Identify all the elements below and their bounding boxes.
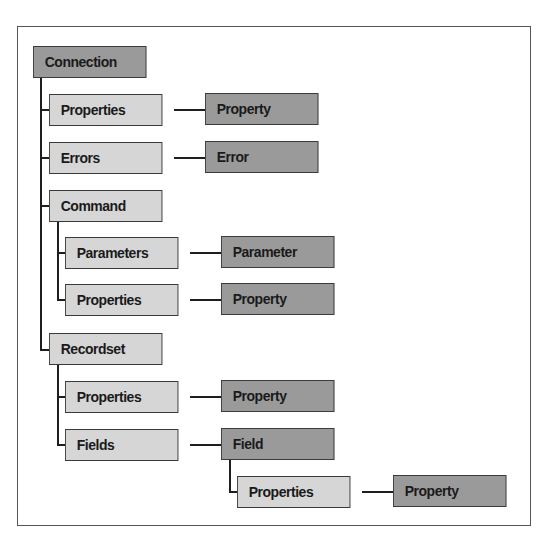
node-fields-collection: Fields bbox=[65, 429, 178, 461]
node-label: Property bbox=[217, 100, 271, 118]
node-command-property-object: Property bbox=[221, 283, 334, 315]
node-parameter-object: Parameter bbox=[221, 236, 334, 268]
node-label: Recordset bbox=[61, 340, 125, 358]
node-label: Property bbox=[233, 290, 287, 308]
connector-cmdprops-property bbox=[190, 299, 222, 301]
node-label: Property bbox=[405, 482, 459, 500]
connector-fields-field bbox=[190, 444, 222, 446]
connector-parameters-parameter bbox=[190, 252, 222, 254]
node-recordset-property-object: Property bbox=[221, 380, 334, 412]
connector-trunk-recordset bbox=[57, 365, 59, 445]
connector-trunk-command bbox=[57, 221, 59, 300]
node-label: Fields bbox=[77, 436, 115, 454]
node-recordset-properties-collection: Properties bbox=[65, 381, 178, 413]
node-field-object: Field bbox=[221, 428, 334, 460]
node-label: Command bbox=[61, 197, 126, 215]
connector-trunk-connection bbox=[40, 77, 42, 351]
connector-fieldprops-property bbox=[362, 491, 394, 493]
node-recordset: Recordset bbox=[49, 333, 162, 365]
node-field-property-object: Property bbox=[393, 475, 506, 507]
node-label: Property bbox=[233, 387, 287, 405]
node-label: Properties bbox=[77, 388, 142, 406]
node-label: Parameter bbox=[233, 243, 297, 261]
node-connection-properties-collection: Properties bbox=[49, 94, 162, 126]
node-parameters-collection: Parameters bbox=[65, 237, 178, 269]
node-errors-collection: Errors bbox=[49, 142, 162, 174]
node-label: Error bbox=[217, 148, 249, 166]
node-label: Field bbox=[233, 435, 263, 453]
connector-properties-property bbox=[174, 109, 206, 111]
node-connection: Connection bbox=[33, 46, 146, 78]
node-label: Parameters bbox=[77, 244, 149, 262]
node-error-object: Error bbox=[205, 141, 318, 173]
connector-trunk-field bbox=[229, 460, 231, 492]
node-label: Errors bbox=[61, 149, 100, 167]
node-field-properties-collection: Properties bbox=[237, 476, 350, 508]
node-label: Properties bbox=[77, 291, 142, 309]
node-label: Connection bbox=[45, 53, 117, 71]
connector-errors-error bbox=[174, 157, 206, 159]
connector-rsprops-property bbox=[190, 396, 222, 398]
node-label: Properties bbox=[249, 483, 314, 501]
node-connection-property-object: Property bbox=[205, 93, 318, 125]
node-command-properties-collection: Properties bbox=[65, 284, 178, 316]
node-label: Properties bbox=[61, 101, 126, 119]
node-command: Command bbox=[49, 190, 162, 222]
